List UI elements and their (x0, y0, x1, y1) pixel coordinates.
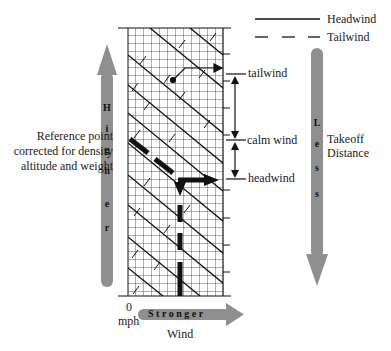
legend-tailwind-label: Tailwind (327, 30, 370, 44)
wind-chart-diagram (0, 0, 391, 351)
takeoff-distance-label-1: Takeoff (327, 132, 364, 146)
higher-letter-h: H (100, 102, 114, 113)
reference-point-label: Reference point corrected for density al… (10, 129, 113, 174)
x-origin-value: 0 (126, 300, 132, 314)
higher-letter-e: e (100, 198, 114, 209)
takeoff-distance-label-2: Distance (327, 146, 369, 160)
bracket-lines (226, 74, 246, 179)
stronger-label: Stronger (148, 307, 206, 321)
legend-headwind-label: Headwind (327, 12, 376, 26)
calm-wind-label: calm wind (247, 133, 297, 147)
higher-letter-g: g (100, 144, 114, 155)
x-origin-unit: mph (118, 314, 139, 328)
less-letter-l: L (310, 117, 324, 128)
higher-letter-h2: h (100, 165, 114, 176)
headwind-label: headwind (248, 171, 295, 185)
less-letter-s: s (310, 162, 324, 173)
x-axis-label: Wind (167, 327, 193, 341)
less-letter-s2: s (310, 188, 324, 199)
tailwind-label: tailwind (248, 66, 287, 80)
higher-letter-r: r (100, 222, 114, 233)
higher-letter-i: i (100, 123, 114, 134)
less-letter-e: e (310, 138, 324, 149)
